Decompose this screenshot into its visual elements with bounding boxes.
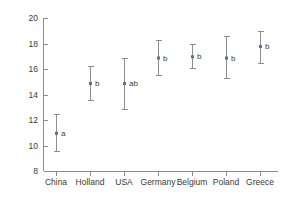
data-point-marker — [225, 57, 228, 60]
y-tick-label: 18 — [29, 39, 39, 49]
significance-letter: b — [197, 52, 202, 61]
significance-letter: b — [163, 54, 168, 63]
y-tick-label: 10 — [29, 141, 39, 151]
data-series-errorbars: ababbbbb — [54, 31, 271, 151]
errorbar-group: b — [224, 36, 237, 79]
x-tick-label: Belgium — [177, 177, 208, 187]
errorbar-group: b — [156, 40, 169, 76]
data-point-marker — [55, 132, 58, 135]
y-tick-label: 16 — [29, 64, 39, 74]
errorbar-group: a — [54, 114, 67, 151]
significance-letter: ab — [129, 79, 138, 88]
errorbar-group: b — [258, 31, 271, 63]
x-tick-label: USA — [115, 177, 133, 187]
y-tick-label: 8 — [33, 166, 38, 176]
chart-container: 8101214161820 ChinaHollandUSAGermanyBelg… — [0, 0, 290, 211]
y-axis: 8101214161820 — [29, 13, 48, 176]
errorbar-group: b — [190, 44, 203, 69]
significance-letter: b — [95, 79, 100, 88]
y-tick-label: 20 — [29, 13, 39, 23]
errorbar-group: ab — [122, 58, 139, 110]
data-point-marker — [157, 57, 160, 60]
data-point-marker — [89, 82, 92, 85]
y-tick-label: 12 — [29, 115, 39, 125]
significance-letter: b — [231, 54, 236, 63]
plot-area: 8101214161820 ChinaHollandUSAGermanyBelg… — [0, 0, 290, 211]
x-tick-label: Greece — [246, 177, 274, 187]
data-point-marker — [123, 82, 126, 85]
errorbar-group: b — [88, 66, 101, 100]
x-tick-label: Poland — [213, 177, 240, 187]
data-point-marker — [259, 45, 262, 48]
significance-letter: b — [265, 42, 270, 51]
y-tick-label: 14 — [29, 90, 39, 100]
chart-svg: 8101214161820 ChinaHollandUSAGermanyBelg… — [0, 0, 290, 211]
data-point-marker — [191, 55, 194, 58]
x-tick-label: Holland — [76, 177, 105, 187]
x-axis: ChinaHollandUSAGermanyBelgiumPolandGreec… — [44, 172, 279, 188]
x-tick-label: China — [45, 177, 67, 187]
x-tick-label: Germany — [141, 177, 177, 187]
significance-letter: a — [61, 129, 66, 138]
